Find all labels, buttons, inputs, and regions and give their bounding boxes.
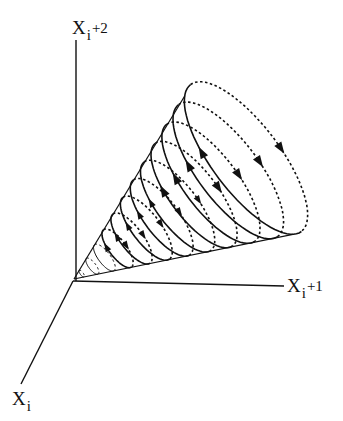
direction-arrow-icon [232,168,246,183]
axis-label-xi-plus-2: Xi+2 [72,18,108,37]
phase-space-diagram [0,0,343,421]
axes [21,40,284,384]
cone-spiral [74,82,308,279]
direction-arrow-icon [212,181,226,196]
direction-arrow-icon [134,209,144,220]
axis-xi-plus-1 [73,281,284,286]
direction-arrow-icon [182,158,195,173]
direction-arrow-icon [156,183,169,198]
axis-xi [21,281,73,384]
direction-arrow-icon [146,197,156,208]
ring-front-arc [184,85,301,235]
direction-arrow-icon [156,219,166,230]
direction-arrow-icon [195,145,208,160]
direction-arrow-icon [138,230,148,241]
direction-arrow-icon [274,141,288,156]
direction-arrow-icon [253,155,267,170]
ring-back-arc [191,82,308,232]
ring-back-arc [179,102,284,236]
axis-label-xi: Xi [12,389,31,408]
direction-arrow-icon [101,241,111,252]
axis-label-xi-plus-1: Xi+1 [287,276,323,295]
